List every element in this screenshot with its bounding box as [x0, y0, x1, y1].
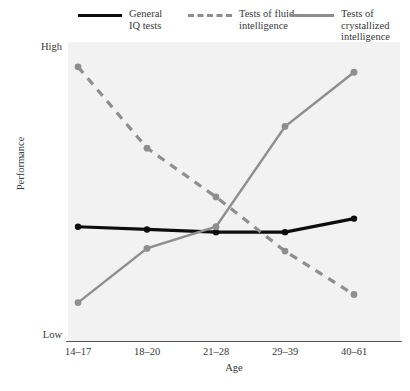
legend-swatch-dashed-line-icon	[188, 8, 232, 22]
x-axis-tick-label: 14–17	[43, 346, 113, 357]
legend-item-tests-of-crystallized-intelligence: Tests of crystallized intelligence	[290, 8, 410, 43]
data-point-marker	[213, 194, 220, 201]
series-tests-of-crystallized-intelligence	[75, 69, 358, 306]
y-axis-title: Performance	[15, 119, 26, 209]
plot-area	[68, 42, 400, 341]
x-axis-tick-label: 21–28	[181, 346, 251, 357]
series-line	[78, 67, 354, 295]
data-point-marker	[144, 245, 151, 252]
data-point-marker	[144, 145, 151, 152]
data-point-marker	[282, 248, 289, 255]
legend-item-general-iq-tests: General IQ tests	[78, 8, 162, 31]
legend-label-general-iq-tests: General IQ tests	[129, 8, 162, 31]
x-axis-title: Age	[68, 362, 400, 373]
legend-swatch-solid-line-icon	[78, 8, 122, 22]
y-axis-tick-high: High	[18, 41, 62, 52]
data-point-marker	[282, 123, 289, 130]
chart-figure: General IQ tests Tests of fluid intellig…	[0, 0, 410, 391]
data-point-marker	[75, 63, 82, 70]
data-point-marker	[351, 291, 358, 298]
x-axis-tick-label: 18–20	[112, 346, 182, 357]
data-point-marker	[351, 215, 357, 221]
legend-swatch-gray-line-icon	[290, 8, 334, 22]
legend-label-tests-of-fluid-intelligence: Tests of fluid intelligence	[239, 8, 294, 31]
series-tests-of-fluid-intelligence	[75, 63, 358, 297]
legend-label-tests-of-crystallized-intelligence: Tests of crystallized intelligence	[341, 8, 410, 43]
plot-series-svg	[68, 42, 400, 341]
data-point-marker	[351, 69, 358, 76]
data-point-marker	[75, 299, 82, 306]
x-axis-line	[66, 341, 402, 342]
series-line	[78, 72, 354, 302]
data-point-marker	[282, 229, 288, 235]
data-point-marker	[144, 226, 150, 232]
x-axis-tick-label: 29–39	[250, 346, 320, 357]
data-point-marker	[213, 223, 220, 230]
data-point-marker	[75, 224, 81, 230]
legend-item-tests-of-fluid-intelligence: Tests of fluid intelligence	[188, 8, 294, 31]
x-axis-ticks: 14–1718–2021–2829–3940–61	[68, 346, 400, 360]
y-axis-tick-low: Low	[18, 329, 62, 340]
chart-legend: General IQ tests Tests of fluid intellig…	[0, 8, 410, 42]
x-axis-tick-label: 40–61	[319, 346, 389, 357]
